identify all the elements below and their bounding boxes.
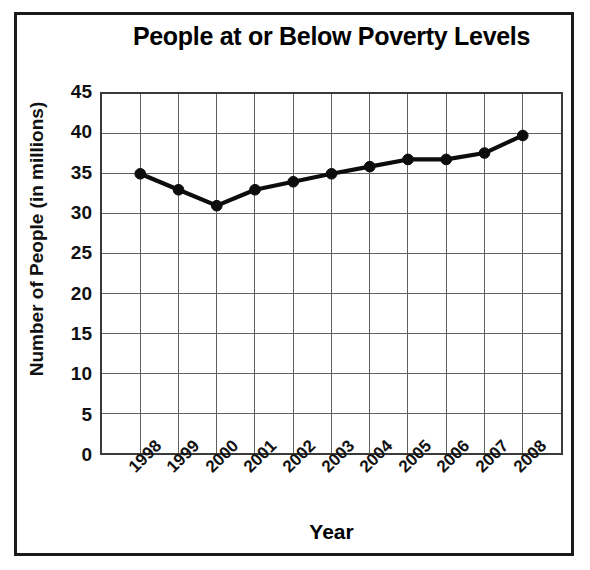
y-axis-tick-label: 20 xyxy=(58,283,92,305)
data-point xyxy=(173,184,184,195)
data-point xyxy=(517,130,528,141)
data-series xyxy=(102,94,561,453)
chart-title: People at or Below Poverty Levels xyxy=(100,22,563,51)
y-axis-tick-labels: 454035302520151050 xyxy=(54,92,92,455)
y-axis-tick-label: 15 xyxy=(58,323,92,345)
y-axis-tick-label: 10 xyxy=(58,363,92,385)
chart-figure: People at or Below Poverty Levels Number… xyxy=(0,0,590,570)
x-axis-tick-labels: 1998199920002001200220032004200520062007… xyxy=(100,455,563,525)
data-point xyxy=(250,184,261,195)
y-axis-tick-label: 40 xyxy=(58,121,92,143)
y-axis-title: Number of People (in millions) xyxy=(26,89,48,389)
x-axis-title: Year xyxy=(100,520,563,544)
data-point xyxy=(211,200,222,211)
y-axis-tick-label: 45 xyxy=(58,81,92,103)
plot-area xyxy=(100,92,563,455)
y-axis-tick-label: 0 xyxy=(58,444,92,466)
y-axis-tick-label: 30 xyxy=(58,202,92,224)
data-point xyxy=(135,168,146,179)
y-axis-tick-label: 5 xyxy=(58,404,92,426)
y-axis-tick-label: 25 xyxy=(58,242,92,264)
data-point xyxy=(326,168,337,179)
data-point xyxy=(441,154,452,165)
data-point xyxy=(288,176,299,187)
data-point xyxy=(479,148,490,159)
y-axis-tick-label: 35 xyxy=(58,162,92,184)
data-point xyxy=(364,161,375,172)
data-point xyxy=(403,154,414,165)
